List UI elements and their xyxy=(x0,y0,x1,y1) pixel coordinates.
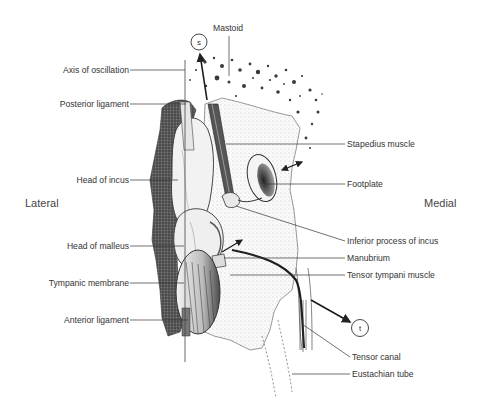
marker-t: t xyxy=(352,320,369,337)
label-head-of-incus: Head of incus xyxy=(76,175,129,185)
eustachian-tube-outline xyxy=(278,320,292,392)
marker-s: s xyxy=(191,34,207,50)
illustration: s t xyxy=(0,0,478,420)
label-posterior-ligament: Posterior ligament xyxy=(60,99,129,109)
label-mastoid: Mastoid xyxy=(213,23,243,33)
arrow-t xyxy=(311,300,350,322)
label-footplate: Footplate xyxy=(347,179,383,189)
svg-text:s: s xyxy=(197,38,201,47)
label-tensor-tympani-muscle: Tensor tympani muscle xyxy=(347,270,435,280)
label-manubrium: Manubrium xyxy=(347,253,390,263)
label-tympanic-membrane: Tympanic membrane xyxy=(49,278,129,288)
lateral-label: Lateral xyxy=(25,197,59,209)
medial-label: Medial xyxy=(424,197,456,209)
label-eustachian-tube: Eustachian tube xyxy=(352,369,414,379)
label-inferior-process-of-incus: Inferior process of incus xyxy=(347,236,438,246)
label-stapedius-muscle: Stapedius muscle xyxy=(347,139,415,149)
label-tensor-canal: Tensor canal xyxy=(352,352,401,362)
label-anterior-ligament: Anterior ligament xyxy=(64,315,129,325)
eustachian-tube-outline-2 xyxy=(262,336,276,398)
label-axis-of-oscillation: Axis of oscillation xyxy=(63,65,129,75)
label-head-of-malleus: Head of malleus xyxy=(67,241,129,251)
ear-ossicles-diagram: s t Lateral Medial Mast xyxy=(0,0,478,420)
anterior-ligament xyxy=(182,308,190,336)
